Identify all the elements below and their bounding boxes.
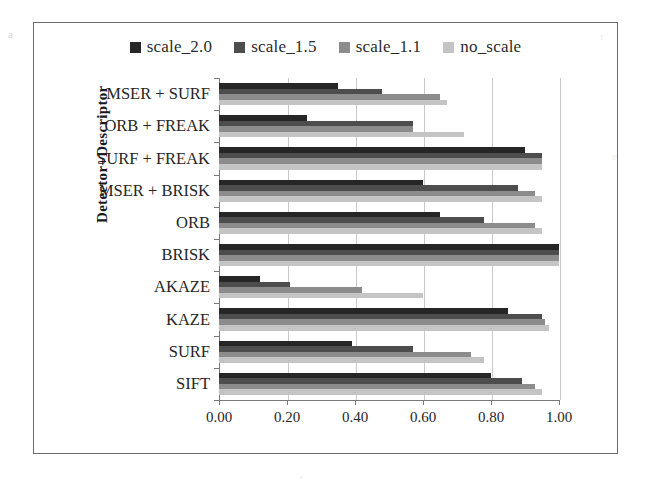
bar-group bbox=[219, 239, 559, 271]
x-axis-tick bbox=[423, 400, 424, 405]
bar-no-scale bbox=[219, 389, 542, 395]
bar-no-scale bbox=[219, 261, 559, 267]
legend-item-scale-2-0: scale_2.0 bbox=[130, 37, 213, 57]
bar-group bbox=[219, 368, 559, 400]
x-axis-tick bbox=[491, 400, 492, 405]
bar-no-scale bbox=[219, 196, 542, 202]
y-axis-category-label: AKAZE bbox=[154, 279, 210, 296]
bar-no-scale bbox=[219, 132, 464, 138]
legend-label: scale_1.5 bbox=[251, 37, 317, 57]
x-axis-tick bbox=[287, 400, 288, 405]
y-axis-category-label: KAZE bbox=[166, 311, 210, 328]
bar-group bbox=[219, 303, 559, 335]
y-axis-category-label: MSER + SURF bbox=[106, 86, 210, 103]
y-axis-category-label: MSER + BRISK bbox=[99, 182, 210, 199]
y-axis-category-label: SIFT bbox=[176, 376, 210, 393]
y-axis-category-label: SURF bbox=[169, 343, 210, 360]
y-axis-tick bbox=[214, 78, 219, 79]
legend-label: scale_1.1 bbox=[356, 37, 422, 57]
chart-legend: scale_2.0scale_1.5scale_1.1no_scale bbox=[34, 37, 617, 57]
legend-swatch-icon bbox=[130, 42, 141, 53]
bar-no-scale bbox=[219, 357, 484, 363]
gridline bbox=[560, 78, 561, 400]
y-axis-category-label: ORB + FREAK bbox=[104, 118, 210, 135]
legend-swatch-icon bbox=[339, 42, 350, 53]
y-axis-category-label: ORB bbox=[176, 215, 210, 232]
bar-group bbox=[219, 142, 559, 174]
bar-group bbox=[219, 336, 559, 368]
legend-swatch-icon bbox=[234, 42, 245, 53]
bar-no-scale bbox=[219, 228, 542, 234]
bar-group bbox=[219, 271, 559, 303]
legend-item-no-scale: no_scale bbox=[443, 37, 521, 57]
x-axis-tick-label: 0.00 bbox=[206, 409, 232, 426]
bar-no-scale bbox=[219, 325, 549, 331]
x-axis-tick-label: 1.00 bbox=[546, 409, 572, 426]
y-axis-tick bbox=[214, 400, 219, 401]
chart-frame: scale_2.0scale_1.5scale_1.1no_scale Dete… bbox=[33, 22, 618, 454]
bar-group bbox=[219, 207, 559, 239]
bar-no-scale bbox=[219, 164, 542, 170]
y-axis-category-label: SURF + FREAK bbox=[97, 150, 210, 167]
x-axis-tick bbox=[559, 400, 560, 405]
legend-item-scale-1-1: scale_1.1 bbox=[339, 37, 422, 57]
x-axis-tick-label: 0.80 bbox=[478, 409, 504, 426]
x-axis-tick bbox=[355, 400, 356, 405]
x-axis-tick bbox=[219, 400, 220, 405]
legend-item-scale-1-5: scale_1.5 bbox=[234, 37, 317, 57]
bar-group bbox=[219, 175, 559, 207]
bar-no-scale bbox=[219, 293, 423, 299]
x-axis-tick-label: 0.40 bbox=[342, 409, 368, 426]
legend-label: no_scale bbox=[460, 37, 521, 57]
plot-wrap: 0.000.200.400.600.801.00MSER + SURFORB +… bbox=[219, 78, 559, 400]
bar-group bbox=[219, 78, 559, 110]
bar-group bbox=[219, 110, 559, 142]
bar-no-scale bbox=[219, 100, 447, 106]
legend-swatch-icon bbox=[443, 42, 454, 53]
x-axis-tick-label: 0.20 bbox=[274, 409, 300, 426]
x-axis-tick-label: 0.60 bbox=[410, 409, 436, 426]
y-axis-category-label: BRISK bbox=[161, 247, 210, 264]
legend-label: scale_2.0 bbox=[147, 37, 213, 57]
